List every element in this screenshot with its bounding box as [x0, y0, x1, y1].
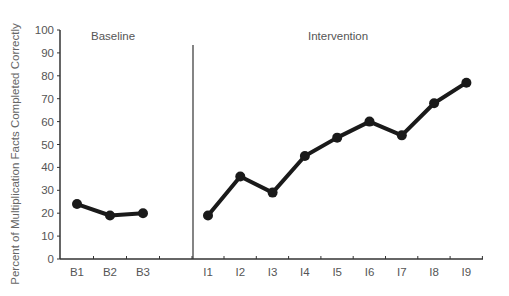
x-tick-label: I5: [332, 266, 342, 278]
data-point: [268, 188, 278, 198]
y-tick-label: 30: [41, 184, 54, 196]
data-point: [332, 133, 342, 143]
x-tick-label: I2: [236, 266, 246, 278]
y-tick-label: 70: [41, 93, 54, 105]
x-tick-label: I8: [429, 266, 439, 278]
x-tick-label: I6: [365, 266, 375, 278]
data-point: [105, 210, 115, 220]
y-tick-label: 0: [48, 253, 54, 265]
data-point: [235, 172, 245, 182]
x-tick-label: I9: [462, 266, 472, 278]
line-chart: 0102030405060708090100B1B2B3I1I2I3I4I5I6…: [0, 0, 509, 296]
x-tick-label: B2: [103, 266, 117, 278]
x-tick-label: I3: [268, 266, 278, 278]
data-point: [429, 98, 439, 108]
y-tick-label: 20: [41, 207, 54, 219]
axes: 0102030405060708090100B1B2B3I1I2I3I4I5I6…: [35, 24, 483, 278]
y-tick-label: 40: [41, 161, 54, 173]
data-point: [138, 208, 148, 218]
x-tick-label: I1: [203, 266, 213, 278]
y-tick-label: 10: [41, 230, 54, 242]
data-point: [461, 78, 471, 88]
y-tick-label: 50: [41, 139, 54, 151]
data-series: [72, 78, 471, 221]
x-tick-label: I4: [300, 266, 310, 278]
y-tick-label: 90: [41, 47, 54, 59]
x-tick-label: B3: [136, 266, 150, 278]
data-point: [203, 210, 213, 220]
y-tick-label: 80: [41, 70, 54, 82]
data-point: [300, 151, 310, 161]
x-tick-label: I7: [397, 266, 407, 278]
y-tick-label: 60: [41, 116, 54, 128]
data-point: [397, 130, 407, 140]
x-tick-label: B1: [70, 266, 84, 278]
data-point: [365, 117, 375, 127]
series-line: [208, 83, 466, 216]
data-point: [72, 199, 82, 209]
y-tick-label: 100: [35, 24, 54, 36]
